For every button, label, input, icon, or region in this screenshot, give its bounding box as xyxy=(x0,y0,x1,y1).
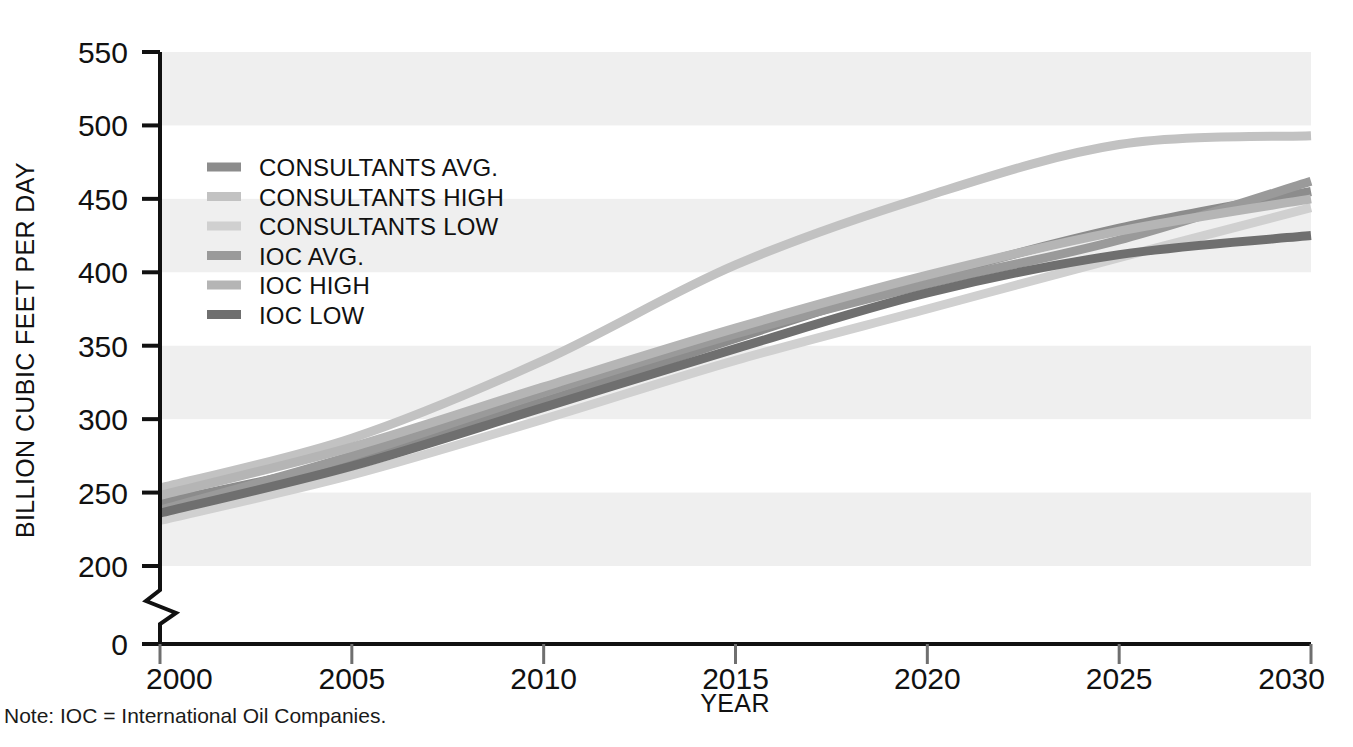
legend-label: CONSULTANTS AVG. xyxy=(259,154,498,181)
y-axis-title: BILLION CUBIC FEET PER DAY xyxy=(11,162,39,538)
chart-figure: 5505004504003503002502000 20002005201020… xyxy=(0,0,1353,747)
y-tick-label-500: 500 xyxy=(78,109,128,142)
x-tick-label-2020: 2020 xyxy=(894,662,961,695)
legend-swatch-icon xyxy=(207,310,241,319)
y-tick-label-200: 200 xyxy=(78,550,128,583)
legend-item-ioc-low[interactable]: IOC LOW xyxy=(207,302,365,329)
x-axis-title: YEAR xyxy=(700,689,770,717)
y-tick-label-400: 400 xyxy=(78,256,128,289)
chart-note: Note: IOC = International Oil Companies. xyxy=(4,704,386,728)
y-tick-label-450: 450 xyxy=(78,183,128,216)
legend-label: CONSULTANTS HIGH xyxy=(259,184,504,211)
x-tick-label-2030: 2030 xyxy=(1258,662,1325,695)
legend-item-ioc-high[interactable]: IOC HIGH xyxy=(207,272,370,299)
legend-label: IOC LOW xyxy=(259,302,365,329)
y-axis-break-icon xyxy=(146,566,176,644)
line-chart: 5505004504003503002502000 20002005201020… xyxy=(0,0,1353,747)
y-tick-label-300: 300 xyxy=(78,403,128,436)
background-band-3 xyxy=(162,493,1311,566)
legend-swatch-icon xyxy=(207,281,241,290)
x-tick-label-2025: 2025 xyxy=(1086,662,1153,695)
legend-item-consultants-avg[interactable]: CONSULTANTS AVG. xyxy=(207,154,498,181)
y-tick-label-550: 550 xyxy=(78,36,128,69)
legend-label: IOC AVG. xyxy=(259,243,364,270)
legend-swatch-icon xyxy=(207,251,241,260)
background-band-0 xyxy=(162,52,1311,125)
legend-swatch-icon xyxy=(207,163,241,172)
y-tick-label-0: 0 xyxy=(111,628,128,661)
y-tick-label-250: 250 xyxy=(78,477,128,510)
x-tick-label-2010: 2010 xyxy=(510,662,577,695)
y-tick-label-350: 350 xyxy=(78,330,128,363)
x-tick-label-2000: 2000 xyxy=(146,662,213,695)
legend-swatch-icon xyxy=(207,222,241,231)
legend-swatch-icon xyxy=(207,192,241,201)
legend-label: IOC HIGH xyxy=(259,272,370,299)
legend-label: CONSULTANTS LOW xyxy=(259,213,499,240)
x-axis-ticks: 2000200520102015202020252030 xyxy=(146,644,1325,695)
x-tick-label-2005: 2005 xyxy=(318,662,385,695)
